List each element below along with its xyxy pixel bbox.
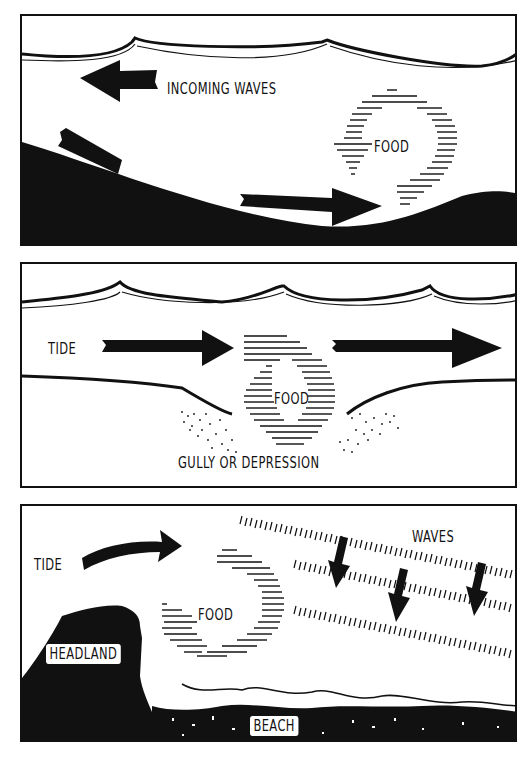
panel-undertow: INCOMING WAVES FOOD UNDERTOW (20, 14, 517, 246)
wave-lines-icon (240, 516, 512, 658)
wave-surface-icon (22, 38, 517, 66)
label-tide: TIDE (34, 556, 62, 574)
label-incoming-waves: INCOMING WAVES (167, 80, 276, 98)
curved-arrow-right-icon (82, 530, 182, 570)
arrow-down-icon (328, 536, 350, 588)
label-food: FOOD (198, 606, 233, 624)
arrow-down-icon (466, 562, 488, 616)
label-waves: WAVES (412, 528, 454, 546)
label-beach: BEACH (250, 716, 298, 736)
headland-rock-icon (22, 606, 152, 742)
label-tide: TIDE (48, 340, 76, 358)
arrow-right-icon (102, 330, 234, 366)
label-headland: HEADLAND (46, 644, 121, 664)
label-food: FOOD (374, 138, 409, 156)
panel-gully: TIDE FOOD GULLY OR DEPRESSION (20, 262, 517, 488)
circular-food-eddy-icon (162, 550, 284, 656)
arrow-down-icon (388, 568, 410, 622)
label-gully: GULLY OR DEPRESSION (178, 454, 319, 472)
arrow-left-icon (80, 60, 158, 102)
arrow-right-icon (332, 328, 502, 368)
label-food: FOOD (274, 390, 309, 408)
undertow-illustration (22, 16, 517, 246)
panel-headland: TIDE WAVES FOOD HEADLAND BEACH (20, 504, 517, 742)
